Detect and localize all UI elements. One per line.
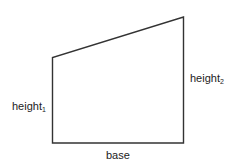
height2-label: height2: [190, 72, 224, 84]
base-label: base: [106, 149, 130, 161]
height1-subscript: 1: [42, 106, 46, 113]
height1-text: height: [12, 100, 42, 112]
height2-text: height: [190, 72, 220, 84]
height2-subscript: 2: [220, 78, 224, 85]
height1-label: height1: [12, 100, 46, 112]
trapezoid-shape: [53, 17, 184, 143]
base-text: base: [106, 149, 130, 161]
